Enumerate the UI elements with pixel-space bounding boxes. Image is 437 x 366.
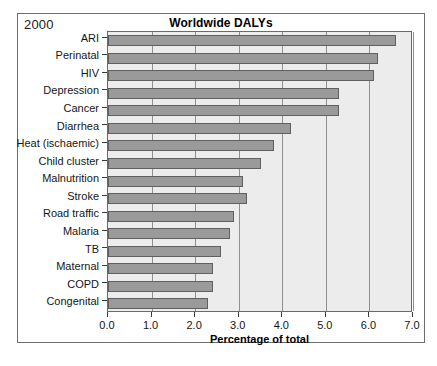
- bar-row: [108, 102, 413, 120]
- bar-row: [108, 173, 413, 191]
- x-tick-mark: [194, 312, 195, 317]
- bar-malnutrition: [108, 176, 243, 187]
- y-tick-mark: [102, 282, 107, 283]
- x-tick-mark: [281, 312, 282, 317]
- bar-congenital: [108, 298, 208, 309]
- y-tick-mark: [102, 89, 107, 90]
- y-tick-label: Heat (ischaemic): [0, 137, 99, 149]
- x-tick-mark: [107, 312, 108, 317]
- chart-figure: 2000 Worldwide DALYs ARIPerinatalHIVDepr…: [0, 0, 437, 366]
- bar-cancer: [108, 105, 339, 116]
- y-tick-label: HIV: [0, 67, 99, 79]
- y-tick-label: TB: [0, 243, 99, 255]
- bar-tb: [108, 246, 221, 257]
- y-tick-mark: [102, 107, 107, 108]
- y-tick-mark: [102, 37, 107, 38]
- bar-depression: [108, 88, 339, 99]
- gridline-x-7: [413, 32, 414, 311]
- bar-heat-ischaemic: [108, 140, 274, 151]
- bar-diarrhea: [108, 123, 291, 134]
- x-tick-label: 5.0: [305, 319, 345, 331]
- bar-row: [108, 243, 413, 261]
- y-tick-label: Stroke: [0, 190, 99, 202]
- y-tick-mark: [102, 230, 107, 231]
- bar-row: [108, 208, 413, 226]
- x-tick-mark: [238, 312, 239, 317]
- bar-malaria: [108, 228, 230, 239]
- bar-row: [108, 50, 413, 68]
- chart-title: Worldwide DALYs: [17, 16, 425, 30]
- bar-row: [108, 120, 413, 138]
- bar-row: [108, 225, 413, 243]
- x-tick-label: 4.0: [261, 319, 301, 331]
- y-tick-mark: [102, 195, 107, 196]
- bar-row: [108, 278, 413, 296]
- bar-child-cluster: [108, 158, 261, 169]
- bar-row: [108, 190, 413, 208]
- y-tick-mark: [102, 247, 107, 248]
- y-tick-label: Congenital: [0, 295, 99, 307]
- bar-ari: [108, 35, 396, 46]
- bar-hiv: [108, 70, 374, 81]
- y-tick-mark: [102, 54, 107, 55]
- y-tick-label: Cancer: [0, 102, 99, 114]
- y-tick-label: Maternal: [0, 260, 99, 272]
- bar-row: [108, 137, 413, 155]
- y-tick-mark: [102, 72, 107, 73]
- bar-maternal: [108, 263, 213, 274]
- x-tick-label: 3.0: [218, 319, 258, 331]
- x-tick-mark: [325, 312, 326, 317]
- x-tick-label: 1.0: [131, 319, 171, 331]
- bar-row: [108, 155, 413, 173]
- y-tick-mark: [102, 142, 107, 143]
- bar-copd: [108, 281, 213, 292]
- y-tick-mark: [102, 212, 107, 213]
- y-tick-label: Depression: [0, 84, 99, 96]
- x-tick-label: 6.0: [348, 319, 388, 331]
- y-tick-label: Diarrhea: [0, 120, 99, 132]
- y-tick-mark: [102, 160, 107, 161]
- y-tick-label: Malaria: [0, 225, 99, 237]
- bar-row: [108, 295, 413, 313]
- y-tick-label: Malnutrition: [0, 172, 99, 184]
- y-tick-label: ARI: [0, 32, 99, 44]
- x-tick-label: 2.0: [174, 319, 214, 331]
- bar-row: [108, 85, 413, 103]
- y-tick-label: COPD: [0, 278, 99, 290]
- y-tick-label: Child cluster: [0, 155, 99, 167]
- bar-row: [108, 67, 413, 85]
- plot-area: [107, 31, 412, 312]
- y-tick-mark: [102, 177, 107, 178]
- bar-row: [108, 260, 413, 278]
- x-tick-label: 7.0: [392, 319, 432, 331]
- bar-road-traffic: [108, 211, 234, 222]
- bar-row: [108, 32, 413, 50]
- y-tick-label: Perinatal: [0, 49, 99, 61]
- y-tick-label: Road traffic: [0, 207, 99, 219]
- y-tick-mark: [102, 300, 107, 301]
- x-tick-mark: [368, 312, 369, 317]
- y-tick-mark: [102, 124, 107, 125]
- x-tick-label: 0.0: [87, 319, 127, 331]
- bar-stroke: [108, 193, 247, 204]
- x-axis-label: Percentage of total: [107, 333, 412, 345]
- x-tick-mark: [151, 312, 152, 317]
- x-tick-mark: [412, 312, 413, 317]
- y-tick-mark: [102, 265, 107, 266]
- bar-perinatal: [108, 53, 378, 64]
